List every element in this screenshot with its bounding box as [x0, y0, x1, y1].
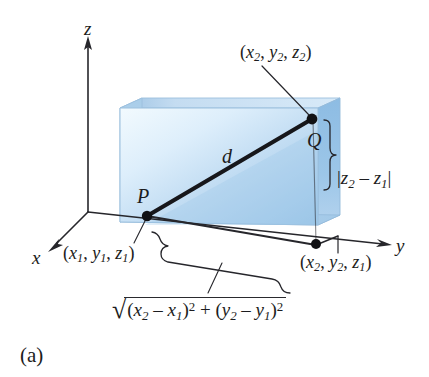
- sep-1: ,: [83, 243, 92, 263]
- horizontal-distance-formula: √(x2 – x1)2 + (y2 – y1)2: [112, 297, 286, 323]
- paren-close: ): [365, 252, 371, 272]
- var-x: x: [306, 252, 314, 272]
- q-coordinates-label: (x2, y2, z2): [240, 43, 311, 64]
- sep-1: ,: [260, 42, 269, 62]
- bar-close: |: [388, 167, 392, 188]
- minus-2: –: [237, 299, 256, 320]
- point-P-label: P: [137, 186, 149, 206]
- z-difference-label: |z2 – z1|: [337, 168, 391, 191]
- leader-q-coords: [262, 66, 309, 115]
- x-axis-arrowhead: [48, 239, 63, 252]
- y-axis: [88, 212, 383, 244]
- var-y: y: [269, 42, 277, 62]
- distance-formula-figure: z y x P Q d (x2, y2, z2) (x1, y1, z1) (x…: [0, 0, 429, 377]
- sep-2: ,: [343, 252, 352, 272]
- minus-sign: –: [355, 167, 374, 188]
- brace-z-difference: [324, 120, 336, 190]
- var-y: y: [92, 243, 100, 263]
- segment-d-label: d: [222, 146, 232, 166]
- leader-p-coords: [134, 219, 146, 243]
- paren-close: ): [128, 243, 134, 263]
- sep-2: ,: [283, 42, 292, 62]
- x-axis-label: x: [32, 248, 40, 267]
- minus-1: –: [149, 299, 168, 320]
- base-edge-front: [147, 216, 316, 245]
- figure-caption: (a): [20, 345, 43, 366]
- z-axis-label: z: [84, 19, 91, 38]
- point-P: [142, 211, 152, 221]
- var-x: x: [69, 243, 77, 263]
- var-y2: y: [222, 299, 230, 320]
- sep-1: ,: [320, 252, 329, 272]
- p-coordinates-label: (x1, y1, z1): [63, 244, 134, 265]
- x-axis: [57, 212, 88, 243]
- y-axis-label: y: [396, 236, 404, 255]
- exponent-2: 2: [277, 299, 283, 314]
- segment-PQ: [147, 119, 312, 216]
- base-point-coordinates-label: (x2, y2, z1): [300, 253, 371, 274]
- point-base: [311, 239, 321, 249]
- sep-2: ,: [106, 243, 115, 263]
- var-x1: x: [168, 299, 176, 320]
- brace-base: [152, 232, 290, 293]
- var-x: x: [246, 42, 254, 62]
- radicand: (x2 – x1)2 + (y2 – y1)2: [124, 297, 286, 323]
- leader-radical: [208, 263, 222, 293]
- var-z1: z: [374, 167, 381, 188]
- paren-close: ): [305, 42, 311, 62]
- var-y1: y: [256, 299, 264, 320]
- var-y: y: [329, 252, 337, 272]
- point-Q: [307, 114, 318, 125]
- point-Q-label: Q: [307, 130, 321, 150]
- var-x2: x: [134, 299, 142, 320]
- plus-sign: +: [195, 299, 215, 320]
